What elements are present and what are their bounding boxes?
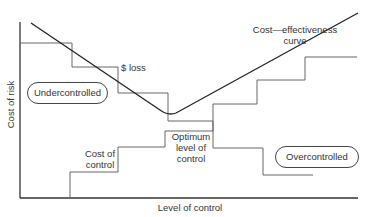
optimum-label-line2: level of	[163, 142, 219, 153]
cost-effectiveness-label-line2: curve	[240, 35, 350, 46]
cost-effectiveness-label: Cost—effectiveness curve	[240, 24, 350, 46]
cost-of-control-label-line2: control	[80, 159, 120, 170]
overcontrolled-region-label: Overcontrolled	[275, 146, 359, 168]
undercontrolled-region-label: Undercontrolled	[27, 82, 108, 104]
optimum-label-line3: control	[163, 153, 219, 164]
cost-of-control-label-line1: Cost of	[80, 148, 120, 159]
cost-of-control-label: Cost of control	[80, 148, 120, 170]
loss-label: $ loss	[121, 62, 146, 73]
y-axis-label: Cost of risk	[5, 75, 16, 135]
x-axis-label: Level of control	[150, 202, 230, 213]
optimum-label-line1: Optimum	[163, 131, 219, 142]
optimum-label: Optimum level of control	[163, 131, 219, 164]
cost-effectiveness-diagram: $ loss Cost—effectiveness curve Cost of …	[0, 0, 367, 217]
cost-effectiveness-label-line1: Cost—effectiveness	[240, 24, 350, 35]
